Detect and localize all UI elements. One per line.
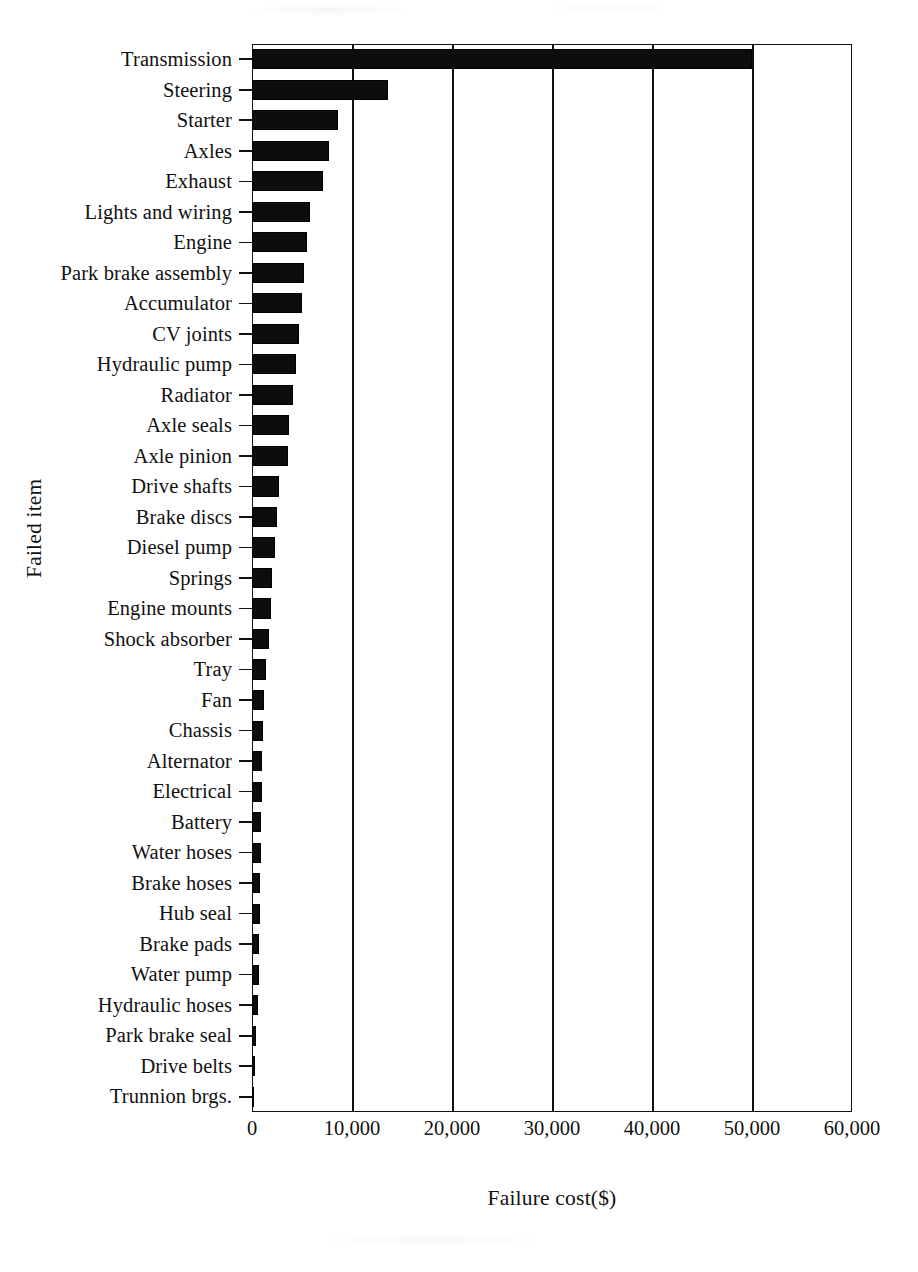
y-axis-tick-mark — [239, 577, 252, 579]
y-axis-tick: Park brake seal — [0, 1024, 252, 1048]
y-axis-tick-label: Park brake seal — [105, 1025, 239, 1046]
y-axis-tick-label: Transmission — [121, 49, 239, 70]
x-axis-tick-label: 0 — [247, 1118, 257, 1139]
y-axis-tick-label: Trunnion brgs. — [110, 1086, 239, 1107]
y-axis-tick: Chassis — [0, 719, 252, 743]
y-axis-tick-label: Chassis — [169, 720, 239, 741]
y-axis-tick-mark — [239, 608, 252, 610]
bar — [252, 843, 261, 863]
y-axis-tick-mark — [239, 150, 252, 152]
y-axis-tick: Steering — [0, 78, 252, 102]
y-axis-tick-mark — [239, 1065, 252, 1067]
bar — [252, 904, 260, 924]
y-axis-tick-label: Axle pinion — [134, 446, 239, 467]
y-axis-tick-label: Exhaust — [165, 171, 239, 192]
bar — [252, 1026, 256, 1046]
y-axis-tick-label: Axles — [184, 141, 239, 162]
y-axis-tick-mark — [239, 882, 252, 884]
x-axis-tick-label: 60,000 — [824, 1118, 880, 1139]
y-axis-tick-label: CV joints — [152, 324, 239, 345]
bar — [252, 232, 307, 252]
y-axis-tick-mark — [239, 333, 252, 335]
bar — [252, 873, 260, 893]
bar — [252, 598, 271, 618]
y-axis-tick: Brake pads — [0, 932, 252, 956]
y-axis-tick-mark — [239, 486, 252, 488]
y-axis-tick-labels: TransmissionSteeringStarterAxlesExhaustL… — [0, 44, 252, 1112]
bar — [252, 202, 310, 222]
y-axis-tick-label: Water pump — [131, 964, 239, 985]
y-axis-tick: Exhaust — [0, 169, 252, 193]
y-axis-tick-mark — [239, 943, 252, 945]
y-axis-tick-label: Drive belts — [140, 1056, 239, 1077]
y-axis-tick-mark — [239, 272, 252, 274]
y-axis-tick-label: Tray — [194, 659, 239, 680]
y-axis-tick: Water pump — [0, 963, 252, 987]
y-axis-tick-label: Fan — [201, 690, 239, 711]
bar — [252, 965, 259, 985]
y-axis-tick: Engine — [0, 230, 252, 254]
y-axis-tick-mark — [239, 242, 252, 244]
y-axis-tick: Shock absorber — [0, 627, 252, 651]
y-axis-tick-mark — [239, 760, 252, 762]
bar — [252, 415, 289, 435]
y-axis-tick-label: Brake hoses — [131, 873, 239, 894]
bar — [252, 1056, 255, 1076]
y-axis-tick: Trunnion brgs. — [0, 1085, 252, 1109]
y-axis-tick-mark — [239, 699, 252, 701]
y-axis-tick: Brake hoses — [0, 871, 252, 895]
bar — [252, 751, 262, 771]
y-axis-tick-mark — [239, 89, 252, 91]
y-axis-tick-label: Brake pads — [139, 934, 239, 955]
y-axis-tick-mark — [239, 181, 252, 183]
bar — [252, 507, 277, 527]
y-axis-tick: Lights and wiring — [0, 200, 252, 224]
y-axis-tick: Transmission — [0, 47, 252, 71]
y-axis-tick-mark — [239, 791, 252, 793]
y-axis-tick-label: Drive shafts — [131, 476, 239, 497]
y-axis-tick-mark — [239, 669, 252, 671]
y-axis-tick: Accumulator — [0, 291, 252, 315]
bar — [252, 171, 323, 191]
x-axis-title: Failure cost($) — [252, 1186, 852, 1211]
y-axis-tick-label: Park brake assembly — [60, 263, 239, 284]
y-axis-tick-mark — [239, 1096, 252, 1098]
bar — [252, 110, 338, 130]
y-axis-tick-mark — [239, 119, 252, 121]
y-axis-tick-label: Hydraulic pump — [97, 354, 239, 375]
bar — [252, 476, 279, 496]
bar — [252, 80, 388, 100]
y-axis-tick: Battery — [0, 810, 252, 834]
bar — [252, 293, 302, 313]
y-axis-tick-mark — [239, 364, 252, 366]
bar — [252, 659, 266, 679]
bar — [252, 995, 258, 1015]
y-axis-tick: Drive belts — [0, 1054, 252, 1078]
y-axis-title: Failed item — [22, 478, 47, 578]
y-axis-tick-mark — [239, 821, 252, 823]
bar — [252, 812, 261, 832]
y-axis-tick: Axles — [0, 139, 252, 163]
y-axis-tick: Axle pinion — [0, 444, 252, 468]
y-axis-tick: Electrical — [0, 780, 252, 804]
bar — [252, 721, 263, 741]
bar — [252, 568, 272, 588]
y-axis-tick: Fan — [0, 688, 252, 712]
bar — [252, 141, 329, 161]
y-axis-tick-label: Accumulator — [124, 293, 239, 314]
bar — [252, 324, 299, 344]
y-axis-tick-label: Shock absorber — [104, 629, 239, 650]
y-axis-tick-label: Engine — [173, 232, 239, 253]
y-axis-tick-label: Axle seals — [146, 415, 239, 436]
y-axis-tick-mark — [239, 516, 252, 518]
y-axis-tick: Water hoses — [0, 841, 252, 865]
y-axis-tick-label: Radiator — [161, 385, 239, 406]
y-axis-tick-label: Springs — [169, 568, 239, 589]
x-axis-tick-label: 10,000 — [324, 1118, 380, 1139]
y-axis-tick: Radiator — [0, 383, 252, 407]
y-axis-tick: Hydraulic pump — [0, 352, 252, 376]
y-axis-tick-mark — [239, 58, 252, 60]
y-axis-tick: Axle seals — [0, 413, 252, 437]
y-axis-tick-mark — [239, 455, 252, 457]
y-axis-tick-mark — [239, 974, 252, 976]
